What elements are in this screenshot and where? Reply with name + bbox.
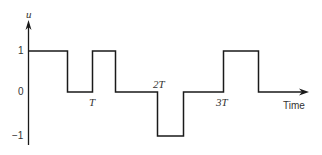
y-tick-minus-1: −1 (12, 131, 23, 141)
y-tick-0: 0 (18, 87, 24, 97)
waveform-line (29, 51, 305, 136)
x-mark-T: T (89, 97, 95, 108)
x-axis-label: Time (283, 101, 305, 111)
y-axis-label: u (26, 9, 32, 20)
y-tick-1: 1 (18, 46, 24, 56)
x-mark-2T: 2T (153, 79, 165, 90)
x-mark-3T: 3T (216, 97, 228, 108)
